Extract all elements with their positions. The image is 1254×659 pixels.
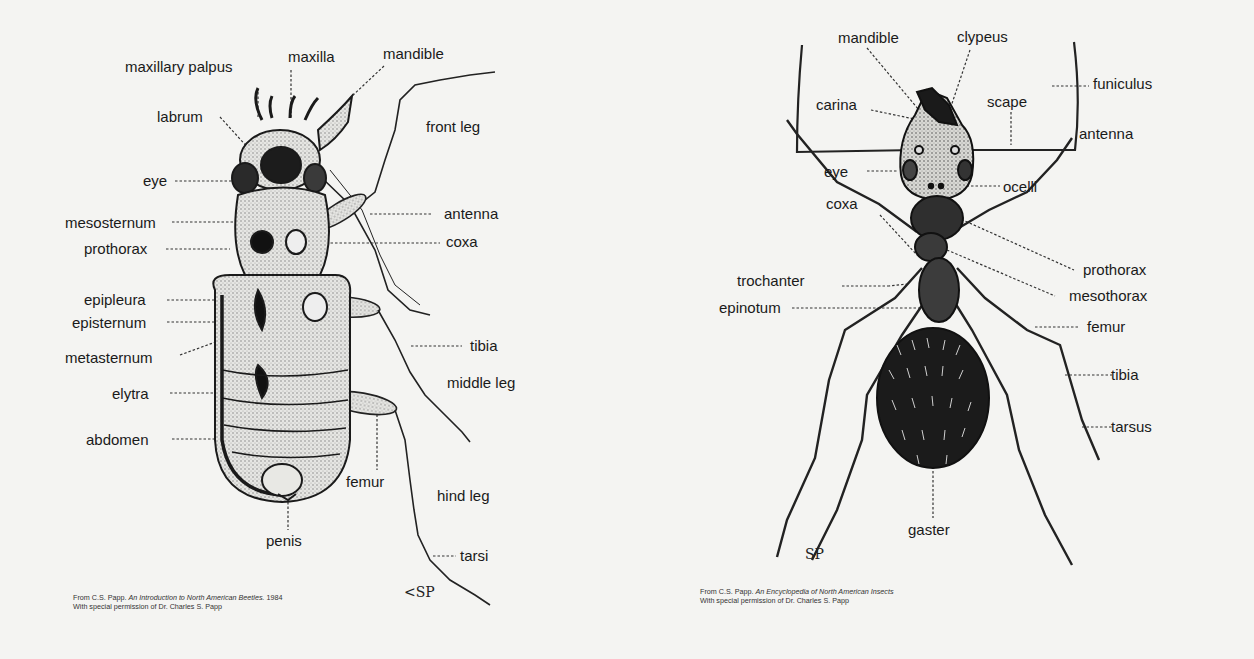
label-mesothorax: mesothorax <box>1069 288 1147 304</box>
ant-illustration <box>627 0 1254 659</box>
caption-permission: With special permission of Dr. Charles S… <box>700 596 894 605</box>
label-coxa: coxa <box>826 196 858 212</box>
label-hind-leg: hind leg <box>437 488 490 504</box>
label-mandible: mandible <box>838 30 899 46</box>
label-epinotum: epinotum <box>719 300 781 316</box>
label-femur: femur <box>346 474 384 490</box>
label-maxillary-palpus: maxillary palpus <box>125 59 233 75</box>
ant-caption: From C.S. Papp. An Encyclopedia of North… <box>700 587 894 605</box>
label-funiculus: funiculus <box>1093 76 1152 92</box>
label-maxilla: maxilla <box>288 49 335 65</box>
label-gaster: gaster <box>908 522 950 538</box>
label-tibia: tibia <box>470 338 498 354</box>
label-antenna: antenna <box>1079 126 1133 142</box>
label-abdomen: abdomen <box>86 432 149 448</box>
label-elytra: elytra <box>112 386 149 402</box>
label-tarsi: tarsi <box>460 548 488 564</box>
label-eye: eye <box>143 173 167 189</box>
caption-book-title: An Encyclopedia of North American Insect… <box>756 587 894 596</box>
label-clypeus: clypeus <box>957 29 1008 45</box>
label-mandible: mandible <box>383 46 444 62</box>
label-epipleura: epipleura <box>84 292 146 308</box>
beetle-caption: From C.S. Papp. An Introduction to North… <box>73 593 283 611</box>
label-prothorax: prothorax <box>84 241 147 257</box>
caption-permission: With special permission of Dr. Charles S… <box>73 602 283 611</box>
label-episternum: episternum <box>72 315 146 331</box>
ant-plate: mandible clypeus funiculus carina scape … <box>627 0 1254 659</box>
label-eye: eye <box>824 164 848 180</box>
label-trochanter: trochanter <box>737 273 805 289</box>
label-femur: femur <box>1087 319 1125 335</box>
caption-prefix: From C.S. Papp. <box>73 593 127 602</box>
label-mesosternum: mesosternum <box>65 215 156 231</box>
artist-signature: <SP <box>404 584 435 600</box>
label-coxa: coxa <box>446 234 478 250</box>
label-scape: scape <box>987 94 1027 110</box>
label-antenna: antenna <box>444 206 498 222</box>
label-tibia: tibia <box>1111 367 1139 383</box>
artist-signature: SP <box>805 546 824 562</box>
caption-year: 1984 <box>267 593 283 602</box>
label-carina: carina <box>816 97 857 113</box>
caption-book-title: An Introduction to North American Beetle… <box>129 593 265 602</box>
label-penis: penis <box>266 533 302 549</box>
caption-prefix: From C.S. Papp. <box>700 587 754 596</box>
label-metasternum: metasternum <box>65 350 153 366</box>
label-prothorax: prothorax <box>1083 262 1146 278</box>
beetle-plate: maxillary palpus maxilla mandible labrum… <box>0 0 627 659</box>
label-front-leg: front leg <box>426 119 480 135</box>
label-tarsus: tarsus <box>1111 419 1152 435</box>
label-labrum: labrum <box>157 109 203 125</box>
label-middle-leg: middle leg <box>447 375 515 391</box>
label-ocelli: ocelli <box>1003 179 1037 195</box>
